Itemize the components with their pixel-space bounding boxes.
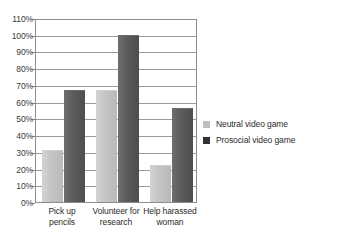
x-axis-category-label-line: Pick up pencils (35, 206, 89, 228)
y-axis-tick-mark (31, 52, 35, 53)
legend-swatch-icon (203, 137, 210, 144)
bar (118, 35, 139, 202)
y-axis-tick-mark (31, 19, 35, 20)
bar (172, 108, 193, 202)
y-axis-tick-mark (31, 36, 35, 37)
legend-item[interactable]: Neutral video game (203, 117, 343, 131)
y-axis-tick-mark (31, 186, 35, 187)
legend-item-label: Neutral video game (216, 119, 288, 129)
x-axis-category-labels: Pick up pencilsVolunteer forresearchHelp… (35, 206, 197, 241)
chart-legend: Neutral video gameProsocial video game (203, 117, 343, 149)
y-axis-tick-mark (31, 103, 35, 104)
x-axis-category-label-line: Help harassed (143, 206, 197, 217)
y-axis-tick-mark (31, 86, 35, 87)
x-axis-category-label-line: research (89, 217, 143, 228)
y-axis-tick-mark (31, 69, 35, 70)
y-axis-tick-mark (31, 203, 35, 204)
x-axis-category-label: Help harassedwoman (143, 206, 197, 228)
plot-area (35, 19, 197, 203)
y-axis-tick-label: 110% (12, 15, 33, 24)
bar (96, 90, 117, 202)
x-axis-category-label-line: woman (143, 217, 197, 228)
y-axis-tick-mark (31, 136, 35, 137)
x-axis-category-label: Pick up pencils (35, 206, 89, 228)
y-axis-tick-label: 100% (12, 31, 33, 40)
x-axis-category-label-line: Volunteer for (89, 206, 143, 217)
bar (64, 90, 85, 202)
bar-chart: 110%100%90%80%70%60%50%40%30%20%10%0% Pi… (0, 0, 346, 241)
legend-swatch-icon (203, 121, 210, 128)
legend-item-label: Prosocial video game (216, 135, 295, 145)
gridline (36, 86, 196, 87)
bar (150, 165, 171, 202)
y-axis-tick-mark (31, 170, 35, 171)
x-axis-category-label: Volunteer forresearch (89, 206, 143, 228)
y-axis-tick-mark (31, 153, 35, 154)
gridline (36, 36, 196, 37)
y-axis: 110%100%90%80%70%60%50%40%30%20%10%0% (0, 0, 33, 241)
bar (42, 150, 63, 202)
y-axis-tick-mark (31, 119, 35, 120)
legend-item[interactable]: Prosocial video game (203, 133, 343, 147)
gridline (36, 69, 196, 70)
gridline (36, 52, 196, 53)
